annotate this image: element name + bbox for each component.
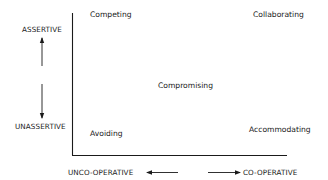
collaborating-label: Collaborating [253,11,304,19]
assertive-label: ASSERTIVE [22,26,62,33]
avoiding-label: Avoiding [90,130,123,138]
compromising-label: Compromising [158,82,213,90]
competing-label: Competing [90,11,132,19]
accommodating-label: Accommodating [249,126,311,134]
uncooperative-label: UNCO-OPERATIVE [68,169,133,176]
unassertive-label: UNASSERTIVE [15,123,66,130]
cooperative-label: CO-OPERATIVE [243,169,297,176]
